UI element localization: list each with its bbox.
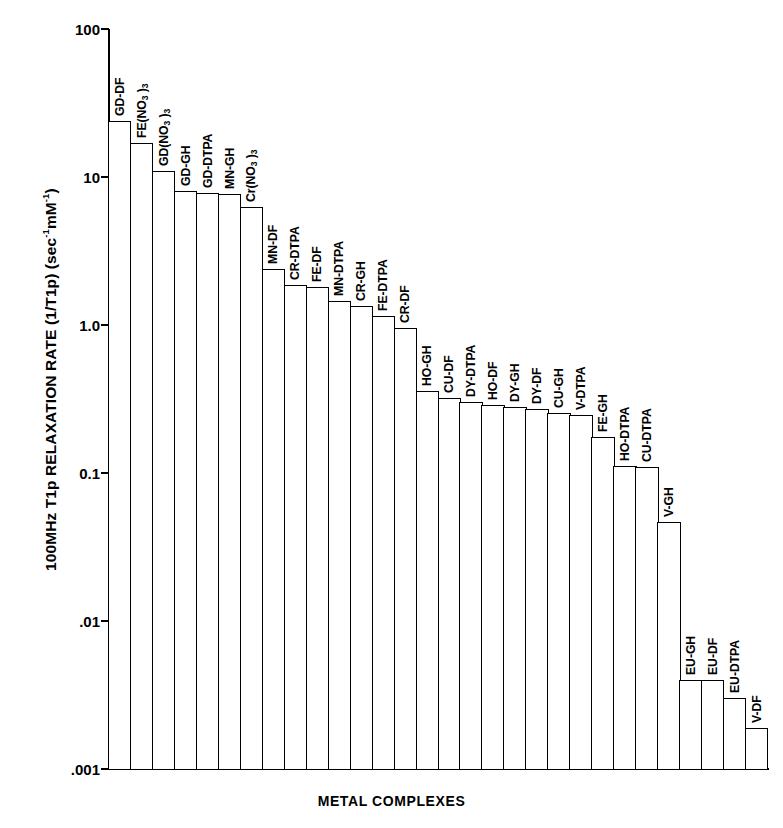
bar-label: V-DTPA — [574, 367, 588, 411]
bar: CR-DF — [394, 328, 417, 769]
bar-label: GD-DTPA — [201, 134, 215, 188]
bar-label: GD-GH — [179, 146, 193, 187]
y-axis-tick-label: .001 — [42, 761, 100, 778]
bar-label: FE-DF — [310, 247, 324, 283]
bar: CU-DTPA — [635, 467, 658, 769]
bar-label: V-GH — [662, 487, 676, 517]
bar: EU-GH — [679, 680, 702, 769]
bar: GD-DF — [108, 121, 131, 769]
bar: CU-DF — [438, 398, 461, 769]
bar-label: FE-DTPA — [376, 259, 390, 311]
bar: V-GH — [657, 522, 680, 769]
bar-label: CR-DTPA — [288, 227, 302, 281]
bar: EU-DTPA — [723, 698, 746, 769]
bar-label: DY-DTPA — [464, 345, 478, 397]
bar-label: HO-DF — [486, 361, 500, 399]
bar-label: CU-DTPA — [640, 408, 654, 462]
bar: FE-DF — [306, 287, 329, 769]
bar-label: DY-GH — [508, 363, 522, 401]
bar: Cr(NO3 )3 — [240, 207, 263, 769]
bar: CU-GH — [547, 413, 570, 769]
bar: GD-DTPA — [196, 193, 219, 769]
y-axis-tick-label: 1.0 — [42, 317, 100, 334]
bar: CR-GH — [350, 306, 373, 769]
bar: FE-DTPA — [372, 316, 395, 769]
bar-label: EU-DTPA — [728, 640, 742, 693]
y-axis-tick-label: 100 — [42, 21, 100, 38]
bar-label: CR-GH — [354, 261, 368, 301]
bar-label: EU-DF — [706, 638, 720, 675]
bar-label: HO-GH — [420, 345, 434, 386]
y-axis-tick-label: .01 — [42, 613, 100, 630]
bar: V-DF — [745, 728, 768, 769]
bar-label: Cr(NO3 )3 — [244, 149, 258, 201]
bar: MN-DF — [262, 269, 285, 769]
y-axis-tick-mark — [101, 176, 109, 178]
chart-canvas: 100MHz T1p RELAXATION RATE (1/T1p) (sec-… — [0, 0, 783, 828]
bar: HO-DTPA — [613, 466, 636, 769]
bar-label: GD-DF — [113, 77, 127, 115]
bar-label: EU-GH — [684, 636, 698, 675]
bar: HO-DF — [481, 405, 504, 769]
bar-label: FE-GH — [596, 394, 610, 432]
y-axis-tick-mark — [101, 620, 109, 622]
bar: GD(NO3 )3 — [152, 171, 175, 769]
x-axis-title: METAL COMPLEXES — [0, 793, 783, 809]
bar-label: CU-GH — [552, 368, 566, 408]
bar: HO-GH — [416, 391, 439, 769]
bar: MN-DTPA — [328, 301, 351, 769]
bar-label: FE(NO3 )3 — [135, 83, 149, 137]
y-axis-tick-mark — [101, 472, 109, 474]
bar: GD-GH — [174, 191, 197, 769]
bar-label: CU-DF — [442, 356, 456, 394]
bar-label: HO-DTPA — [618, 406, 632, 460]
y-axis-tick-label: 10 — [42, 169, 100, 186]
plot-area: GD-DFFE(NO3 )3GD(NO3 )3GD-GHGD-DTPAMN-GH… — [108, 29, 767, 769]
bar-label: V-DF — [750, 695, 764, 723]
bar: EU-DF — [701, 680, 724, 769]
bar: V-DTPA — [569, 415, 592, 769]
bar: DY-GH — [503, 407, 526, 769]
y-axis-tick-mark — [101, 28, 109, 30]
bar: FE-GH — [591, 437, 614, 769]
bar: FE(NO3 )3 — [130, 143, 153, 769]
bar-label: MN-DF — [266, 225, 280, 264]
bar-label: MN-GH — [223, 148, 237, 189]
bar-label: GD(NO3 )3 — [157, 109, 171, 166]
y-axis-tick-labels: 100101.00.1.01.001 — [40, 0, 100, 828]
y-axis-tick-mark — [101, 768, 109, 770]
bar-label: CR-DF — [398, 286, 412, 324]
bar-label: MN-DTPA — [332, 241, 346, 296]
bar: CR-DTPA — [284, 285, 307, 769]
y-axis-tick-label: 0.1 — [42, 465, 100, 482]
bar-label: DY-DF — [530, 368, 544, 404]
y-axis-tick-mark — [101, 324, 109, 326]
bar: DY-DF — [525, 409, 548, 769]
bar: MN-GH — [218, 194, 241, 769]
bar: DY-DTPA — [459, 402, 482, 769]
